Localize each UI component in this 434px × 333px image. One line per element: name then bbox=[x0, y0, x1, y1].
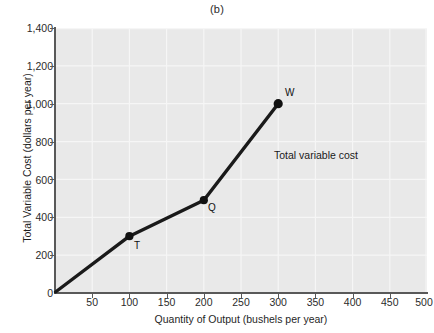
x-tick-mark-50 bbox=[92, 294, 93, 298]
x-tick-label-500: 500 bbox=[415, 296, 433, 308]
y-axis-title: Total Variable Cost (dollars per year) bbox=[21, 38, 33, 278]
chart-figure: (b) bbox=[0, 0, 434, 333]
x-tick-mark-400 bbox=[353, 294, 354, 298]
series-annotation-total-variable-cost: Total variable cost bbox=[274, 149, 358, 161]
gridlines bbox=[55, 28, 427, 293]
x-tick-mark-450 bbox=[390, 294, 391, 298]
data-point-label-q: Q bbox=[208, 202, 216, 213]
y-tick-mark-200 bbox=[50, 255, 54, 256]
x-tick-mark-250 bbox=[241, 294, 242, 298]
x-axis-title: Quantity of Output (bushels per year) bbox=[55, 313, 427, 325]
y-tick-mark-1400 bbox=[50, 28, 54, 29]
y-tick-mark-600 bbox=[50, 179, 54, 180]
panel-title: (b) bbox=[0, 3, 434, 15]
y-axis-line bbox=[54, 27, 56, 294]
x-tick-mark-300 bbox=[278, 294, 279, 298]
x-tick-mark-150 bbox=[167, 294, 168, 298]
x-tick-mark-100 bbox=[129, 294, 130, 298]
y-tick-mark-1200 bbox=[50, 66, 54, 67]
y-tick-mark-1000 bbox=[50, 104, 54, 105]
y-tick-mark-400 bbox=[50, 217, 54, 218]
x-tick-mark-200 bbox=[204, 294, 205, 298]
x-tick-mark-350 bbox=[315, 294, 316, 298]
y-tick-label-0: 0 bbox=[47, 287, 53, 299]
data-point-label-w: W bbox=[285, 87, 294, 98]
data-point-label-t: T bbox=[134, 240, 140, 251]
plot-area bbox=[55, 28, 427, 293]
y-tick-mark-800 bbox=[50, 142, 54, 143]
